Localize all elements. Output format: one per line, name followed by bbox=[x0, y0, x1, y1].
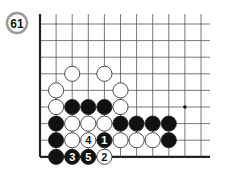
black-stone bbox=[49, 149, 64, 164]
black-stone bbox=[65, 99, 80, 114]
stone-disc bbox=[49, 133, 64, 148]
problem-number: 61 bbox=[10, 17, 24, 31]
problem-badge: 61 bbox=[7, 13, 27, 33]
black-stone bbox=[161, 133, 176, 148]
stone-disc bbox=[113, 116, 128, 131]
stone-disc bbox=[81, 99, 96, 114]
black-stone: 5 bbox=[81, 149, 96, 164]
stones: 41352 bbox=[49, 66, 177, 164]
stone-disc bbox=[97, 116, 112, 131]
black-stone bbox=[97, 99, 112, 114]
white-stone bbox=[129, 133, 144, 148]
white-stone bbox=[113, 99, 128, 114]
go-diagram: 61 41352 bbox=[0, 0, 225, 171]
black-stone bbox=[49, 133, 64, 148]
white-stone bbox=[49, 83, 64, 98]
stone-disc bbox=[129, 116, 144, 131]
white-stone: 4 bbox=[81, 133, 96, 148]
white-stone bbox=[145, 133, 160, 148]
star-points bbox=[183, 105, 187, 109]
star-point bbox=[183, 105, 187, 109]
stone-disc bbox=[65, 133, 80, 148]
black-stone bbox=[49, 116, 64, 131]
stone-disc bbox=[49, 149, 64, 164]
move-number: 2 bbox=[101, 151, 107, 163]
move-number: 3 bbox=[69, 151, 75, 163]
black-stone bbox=[113, 116, 128, 131]
stone-disc bbox=[161, 116, 176, 131]
stone-disc bbox=[97, 99, 112, 114]
stone-disc bbox=[113, 83, 128, 98]
white-stone: 2 bbox=[97, 149, 112, 164]
white-stone bbox=[81, 116, 96, 131]
stone-disc bbox=[49, 83, 64, 98]
stone-disc bbox=[113, 99, 128, 114]
stone-disc bbox=[129, 133, 144, 148]
stone-disc bbox=[145, 133, 160, 148]
white-stone bbox=[113, 133, 128, 148]
stone-disc bbox=[97, 66, 112, 81]
white-stone bbox=[113, 83, 128, 98]
stone-disc bbox=[81, 116, 96, 131]
move-number: 4 bbox=[85, 134, 92, 146]
stone-disc bbox=[49, 99, 64, 114]
black-stone bbox=[81, 99, 96, 114]
black-stone bbox=[161, 116, 176, 131]
stone-disc bbox=[49, 116, 64, 131]
stone-disc bbox=[113, 133, 128, 148]
black-stone: 3 bbox=[65, 149, 80, 164]
stone-disc bbox=[65, 66, 80, 81]
white-stone bbox=[97, 66, 112, 81]
stone-disc bbox=[161, 133, 176, 148]
black-stone bbox=[129, 116, 144, 131]
stone-disc bbox=[65, 116, 80, 131]
white-stone bbox=[49, 99, 64, 114]
black-stone: 1 bbox=[97, 133, 112, 148]
white-stone bbox=[65, 133, 80, 148]
white-stone bbox=[65, 116, 80, 131]
move-number: 5 bbox=[85, 151, 91, 163]
move-number: 1 bbox=[101, 134, 107, 146]
stone-disc bbox=[145, 116, 160, 131]
white-stone bbox=[65, 66, 80, 81]
black-stone bbox=[145, 116, 160, 131]
stone-disc bbox=[65, 99, 80, 114]
white-stone bbox=[97, 116, 112, 131]
